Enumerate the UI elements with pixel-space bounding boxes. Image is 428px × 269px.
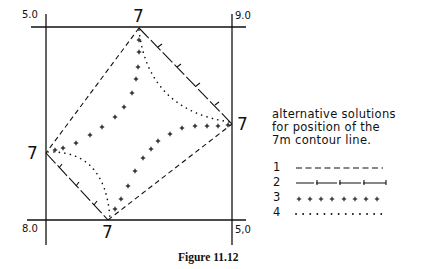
corner-value-top-right: 9.0 xyxy=(235,11,251,21)
solution-3-plus-marks xyxy=(53,38,230,211)
figure-caption: Figure 11.12 xyxy=(178,251,238,263)
corner-value-bottom-right: 5,0 xyxy=(235,225,251,235)
legend-number-1: 1 xyxy=(273,162,280,174)
corner-value-top-left: 5.0 xyxy=(22,10,38,20)
figure-canvas: 5.0 9.0 8.0 5,0 7 7 7 7 alternative solu… xyxy=(0,0,428,269)
contour-label-bottom: 7 xyxy=(102,224,113,241)
contour-label-left: 7 xyxy=(27,145,38,162)
note-line-3: 7m contour line. xyxy=(272,134,396,147)
legend-samples xyxy=(296,168,386,214)
solution-2-dash-tick xyxy=(46,28,232,220)
contour-label-right: 7 xyxy=(237,116,248,133)
legend-number-2: 2 xyxy=(273,177,280,189)
solution-4-dotted xyxy=(48,30,230,218)
legend-number-3: 3 xyxy=(273,192,280,204)
legend-sample-3 xyxy=(297,197,379,201)
contour-label-top: 7 xyxy=(133,8,144,25)
legend-note: alternative solutions for position of th… xyxy=(272,108,396,147)
grid-lines xyxy=(27,14,246,245)
legend-number-4: 4 xyxy=(273,207,280,219)
solution-1-dashed xyxy=(46,28,232,220)
corner-value-bottom-left: 8.0 xyxy=(22,224,38,234)
